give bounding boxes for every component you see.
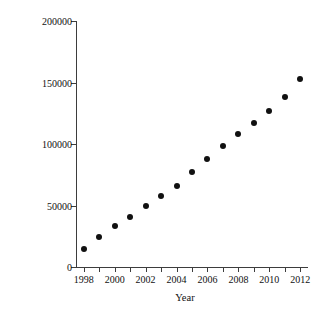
data-point [174, 183, 180, 189]
y-tick-label: 200000 [42, 16, 72, 27]
data-point [81, 246, 87, 252]
plot-area: 050000100000150000200000 199820002002200… [76, 21, 308, 267]
x-tick-label: 2006 [197, 274, 217, 285]
x-tick-mark [300, 267, 301, 272]
x-tick-mark [254, 267, 255, 272]
x-tick-mark [99, 267, 100, 272]
data-point [220, 143, 226, 149]
x-tick-label: 2012 [290, 274, 310, 285]
x-tick-mark [285, 267, 286, 272]
data-point [251, 120, 257, 126]
chart-figure: # of AP statistic exams taken 0500001000… [0, 0, 327, 319]
x-tick-mark [192, 267, 193, 272]
x-tick-label: 2008 [228, 274, 248, 285]
x-tick-mark [177, 267, 178, 272]
x-tick-label: 2002 [136, 274, 156, 285]
x-tick-mark [146, 267, 147, 272]
data-point [266, 108, 272, 114]
x-tick-label: 2010 [259, 274, 279, 285]
x-tick-mark [223, 267, 224, 272]
data-point [189, 169, 195, 175]
y-axis-line [76, 21, 77, 267]
data-point [96, 234, 102, 240]
x-tick-mark [84, 267, 85, 272]
data-point [204, 156, 210, 162]
data-point [158, 193, 164, 199]
x-tick-mark [161, 267, 162, 272]
data-point [282, 94, 288, 100]
y-axis-title: # of AP statistic exams taken [0, 0, 22, 319]
y-tick-label: 50000 [47, 200, 72, 211]
x-tick-mark [207, 267, 208, 272]
y-tick-label: 150000 [42, 77, 72, 88]
x-tick-mark [130, 267, 131, 272]
x-tick-mark [269, 267, 270, 272]
x-tick-label: 2000 [105, 274, 125, 285]
x-tick-label: 2004 [167, 274, 187, 285]
x-tick-label: 1998 [74, 274, 94, 285]
y-tick-label: 0 [67, 262, 72, 273]
x-axis-title: Year [60, 292, 310, 303]
y-tick-label: 100000 [42, 139, 72, 150]
data-point [297, 76, 303, 82]
data-point [112, 223, 118, 229]
data-point [235, 131, 241, 137]
data-point [143, 203, 149, 209]
x-tick-mark [115, 267, 116, 272]
data-point [127, 214, 133, 220]
x-tick-mark [238, 267, 239, 272]
